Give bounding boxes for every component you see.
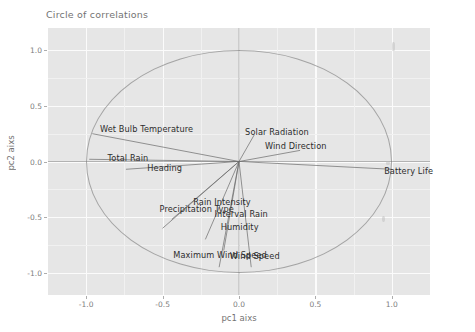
x-tick-mark	[163, 296, 164, 299]
x-tick-label: -0.5	[148, 300, 178, 309]
y-tick-mark	[44, 162, 47, 163]
variable-label-total-rain: Total Rain	[108, 154, 149, 162]
vector-solar-radiation	[239, 135, 254, 162]
y-tick-mark	[44, 106, 47, 107]
x-tick-label: 0.0	[224, 300, 254, 309]
scan-artifact	[392, 42, 395, 51]
y-tick-label: 0.0	[14, 158, 42, 167]
x-tick-mark	[86, 296, 87, 299]
vector-wind-direction	[239, 150, 300, 161]
x-tick-mark	[239, 296, 240, 299]
variable-label-heading: Heading	[147, 164, 182, 172]
variable-label-humidity: Humidity	[221, 223, 259, 231]
scan-artifact	[386, 161, 390, 165]
plot-panel: Wet Bulb TemperatureTotal RainHeadingSol…	[48, 28, 430, 295]
variable-label-battery-life: Battery Life	[384, 167, 433, 175]
y-tick-mark	[44, 217, 47, 218]
x-tick-label: 1.0	[377, 300, 407, 309]
variable-label-solar-radiation: Solar Radiation	[245, 128, 309, 136]
variable-label-wind-speed: Wind Speed	[230, 252, 280, 260]
y-tick-label: -0.5	[14, 213, 42, 222]
y-tick-mark	[44, 50, 47, 51]
y-tick-label: 1.0	[14, 46, 42, 55]
figure-root: Circle of correlations Wet Bulb Temperat…	[0, 0, 475, 332]
x-tick-label: -1.0	[71, 300, 101, 309]
scan-artifact	[382, 216, 385, 222]
y-tick-mark	[44, 273, 47, 274]
page-title: Circle of correlations	[46, 9, 148, 20]
variable-label-interval-rain: Interval Rain	[215, 210, 268, 218]
x-tick-mark	[315, 296, 316, 299]
x-tick-label: 0.5	[300, 300, 330, 309]
x-axis-label: pc1 aixs	[48, 313, 430, 323]
vector-battery-life	[239, 162, 392, 170]
y-tick-label: -1.0	[14, 269, 42, 278]
y-axis-label: pc2 aixs	[6, 118, 16, 188]
y-tick-label: 0.5	[14, 102, 42, 111]
x-tick-mark	[392, 296, 393, 299]
variable-label-wet-bulb-temperature: Wet Bulb Temperature	[100, 125, 193, 133]
variable-label-wind-direction: Wind Direction	[265, 142, 327, 150]
